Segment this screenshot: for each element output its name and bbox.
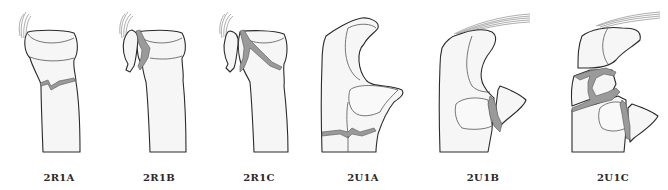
radius-neck-fracture-illustration: [0, 0, 110, 170]
figure-2r1b: 2R1B: [110, 0, 210, 190]
radius-head-complete-fracture-illustration: [210, 0, 310, 170]
figure-label: 2R1C: [243, 172, 274, 183]
figure-label: 2R1B: [143, 172, 175, 183]
figure-2r1c: 2R1C: [210, 0, 310, 190]
figure-label: 2U1C: [597, 172, 629, 183]
figure-label: 2U1B: [467, 172, 499, 183]
figure-2u1a: 2U1A: [310, 0, 430, 190]
figure-label: 2R1A: [43, 172, 74, 183]
ulna-coronoid-fracture-illustration: [430, 0, 540, 170]
figure-2r1a: 2R1A: [0, 0, 110, 190]
ulna-complex-fracture-illustration: [560, 0, 668, 170]
radius-head-partial-fracture-illustration: [110, 0, 210, 170]
figure-2u1c: 2U1C: [560, 0, 668, 190]
figure-2u1b: 2U1B: [430, 0, 540, 190]
ulna-metaphyseal-fracture-illustration: [310, 0, 430, 170]
figure-label: 2U1A: [347, 172, 379, 183]
